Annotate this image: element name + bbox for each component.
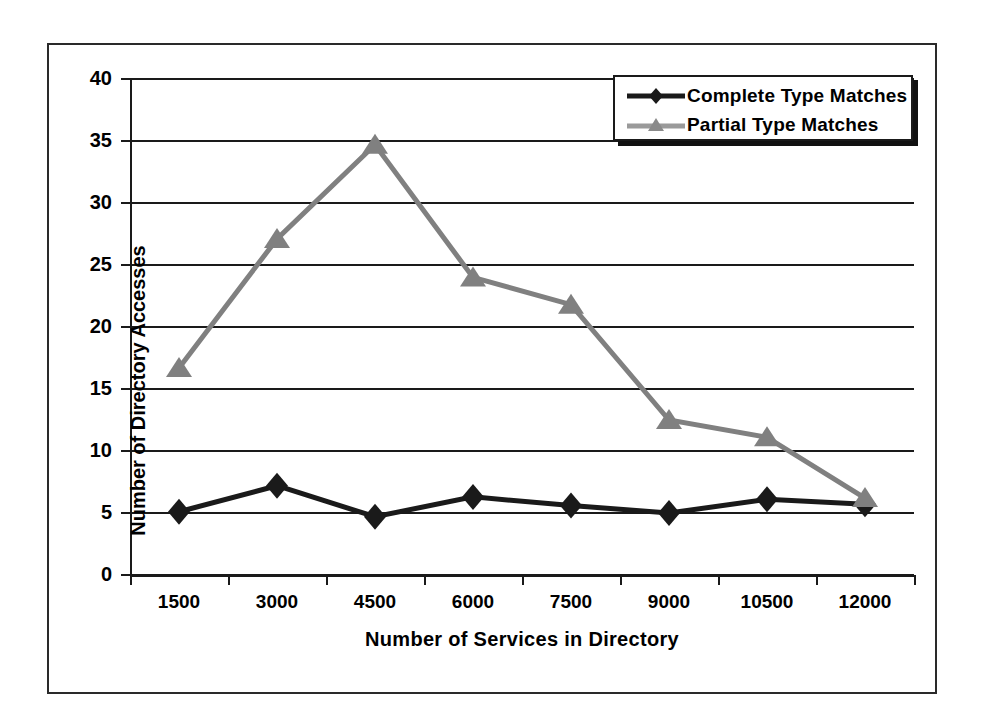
legend-item-complete-type-matches[interactable]: Complete Type Matches (625, 81, 911, 110)
legend-swatch-triangle-icon (625, 115, 687, 135)
x-axis-tick (522, 575, 524, 585)
y-axis-tick-label: 40 (52, 68, 112, 88)
x-axis-tick (424, 575, 426, 585)
y-axis-tick (121, 78, 130, 80)
gridline (130, 450, 914, 452)
legend-item-partial-type-matches[interactable]: Partial Type Matches (625, 110, 911, 139)
y-axis-tick-label: 30 (52, 192, 112, 212)
x-axis-title: Number of Services in Directory (130, 628, 914, 651)
chart-legend: Complete Type Matches Partial Type Match… (613, 75, 913, 141)
legend-label-complete-type-matches: Complete Type Matches (687, 85, 907, 107)
gridline (130, 388, 914, 390)
y-axis-tick-label: 35 (52, 130, 112, 150)
legend-label-partial-type-matches: Partial Type Matches (687, 114, 879, 136)
y-axis-tick-label: 5 (52, 502, 112, 522)
x-axis-tick-label: 12000 (805, 592, 925, 611)
gridline (130, 202, 914, 204)
y-axis-tick-label: 10 (52, 440, 112, 460)
x-axis-tick (326, 575, 328, 585)
y-axis-tick-label: 0 (52, 564, 112, 584)
y-axis-title: Number of Directory Accesses (127, 181, 150, 601)
y-axis-tick-label: 15 (52, 378, 112, 398)
y-axis-tick-label: 20 (52, 316, 112, 336)
gridline (130, 512, 914, 514)
gridline (130, 326, 914, 328)
legend-swatch-diamond-icon (625, 86, 687, 106)
x-axis-tick (914, 575, 916, 585)
x-axis-tick (620, 575, 622, 585)
gridline (130, 264, 914, 266)
y-axis-tick (121, 140, 130, 142)
x-axis-tick (816, 575, 818, 585)
x-axis-tick (228, 575, 230, 585)
x-axis-tick (718, 575, 720, 585)
y-axis-tick-label: 25 (52, 254, 112, 274)
